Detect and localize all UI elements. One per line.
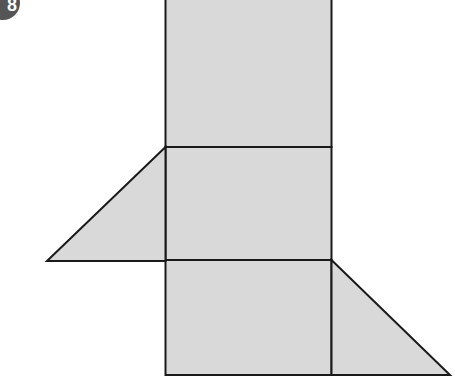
middle-rectangle [166,147,332,260]
prism-net-diagram [0,0,455,387]
left-triangle [47,147,166,261]
right-triangle [332,260,451,375]
bottom-rectangle [166,260,332,375]
top-rectangle [166,0,332,147]
